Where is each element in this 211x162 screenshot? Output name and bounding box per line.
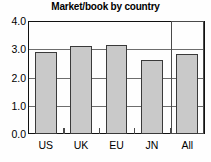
bar-jn[interactable]: [141, 60, 163, 134]
bar-series: [28, 21, 205, 134]
y-tick-label-0: 0.0: [0, 128, 26, 140]
y-tick-label-1: 1.0: [0, 100, 26, 112]
x-tick-label-uk: UK: [63, 139, 98, 151]
y-axis: 4.0 3.0 2.0 1.0 0.0: [0, 0, 26, 162]
bar-us[interactable]: [35, 52, 57, 134]
x-tick-label-us: US: [28, 139, 63, 151]
bar-all[interactable]: [176, 54, 198, 134]
x-tick-label-jn: JN: [134, 139, 169, 151]
bar-eu[interactable]: [106, 45, 128, 134]
chart-title: Market/book by country: [0, 1, 211, 12]
bar-uk[interactable]: [70, 46, 92, 134]
x-tick-label-all: All: [170, 139, 205, 151]
y-tick-label-4: 4.0: [0, 15, 26, 27]
x-tick-label-eu: EU: [99, 139, 134, 151]
y-tick-label-2: 2.0: [0, 72, 26, 84]
x-axis: US UK EU JN All: [28, 136, 205, 156]
y-tick-label-3: 3.0: [0, 43, 26, 55]
bar-chart: Market/book by country 4.0 3.0 2.0 1.0 0…: [0, 0, 211, 162]
x-tick-mark-3: [170, 128, 171, 134]
x-tick-mark-2: [134, 128, 135, 134]
x-tick-mark-0: [63, 128, 64, 134]
x-tick-mark-1: [99, 128, 100, 134]
